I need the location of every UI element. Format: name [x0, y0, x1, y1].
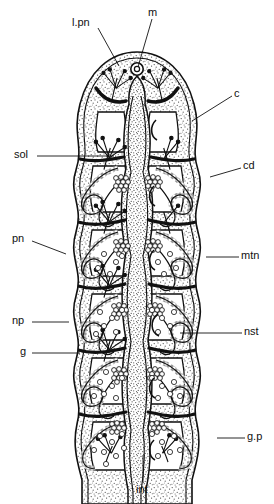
label-m: m	[148, 7, 157, 18]
label-int: int	[136, 484, 148, 495]
label-g: g	[20, 346, 26, 357]
mouth-m	[131, 63, 143, 75]
label-cd: cd	[243, 160, 255, 171]
label-sol: sol	[14, 149, 28, 160]
label-np: np	[12, 315, 24, 326]
figure-canvas: l.pnmcsolcdpnmtnnpnstgg.pint	[0, 0, 274, 504]
label-c: c	[234, 88, 240, 99]
leader-line-pn	[32, 241, 66, 254]
label-nst: nst	[244, 326, 259, 337]
anatomy-drawing	[0, 0, 274, 504]
intestine-int	[122, 76, 153, 504]
label-mtn: mtn	[241, 250, 259, 261]
label-pn: pn	[12, 233, 24, 244]
leader-line-c	[192, 96, 232, 121]
label-l.pn: l.pn	[72, 17, 90, 28]
label-g.p: g.p	[247, 431, 262, 442]
leader-line-cd	[210, 168, 241, 177]
